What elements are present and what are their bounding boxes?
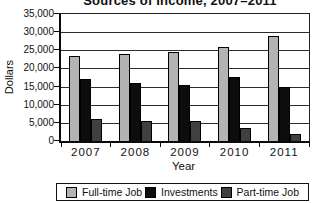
- x-axis-title: Year: [59, 160, 308, 172]
- x-axis-label-2011: 2011: [259, 146, 309, 158]
- x-axis-label-2010: 2010: [210, 146, 260, 158]
- bar-investments-2008: [130, 83, 141, 141]
- bar-part-time-job-2008: [141, 121, 152, 141]
- y-axis-tick-label: 15,000: [12, 81, 54, 93]
- legend-swatch-part-time-job: [221, 187, 232, 198]
- plot-area: [59, 13, 310, 143]
- chart-title: Sources of Income, 2007–2011: [50, 0, 310, 8]
- y-axis-tick: [54, 13, 59, 14]
- bar-full-time-job-2007: [69, 56, 80, 141]
- legend-item-full-time-job: Full-time Job: [66, 186, 142, 198]
- y-axis-tick-label: 0: [12, 135, 54, 147]
- legend-swatch-investments: [145, 187, 156, 198]
- bar-investments-2007: [80, 79, 91, 141]
- bar-investments-2009: [179, 85, 190, 141]
- y-axis-tick: [54, 49, 59, 50]
- income-bar-chart-figure: Sources of Income, 2007–2011 Dollars 35,…: [0, 0, 314, 203]
- y-axis-tick-label: 25,000: [12, 44, 54, 56]
- gridline: [61, 32, 309, 33]
- bar-part-time-job-2011: [290, 134, 301, 141]
- y-axis-tick-label: 30,000: [12, 26, 54, 38]
- x-axis-label-2007: 2007: [61, 146, 111, 158]
- bar-group-2010: [210, 47, 260, 141]
- bar-full-time-job-2010: [218, 47, 229, 141]
- bar-part-time-job-2009: [190, 121, 201, 141]
- legend-label-part-time-job: Part-time Job: [237, 186, 299, 198]
- y-axis-tick-label: 20,000: [12, 62, 54, 74]
- y-axis-tick-label: 5,000: [12, 117, 54, 129]
- legend: Full-time JobInvestmentsPart-time Job: [56, 183, 309, 201]
- bar-group-2009: [160, 52, 210, 141]
- y-axis-tick: [54, 122, 59, 123]
- bar-part-time-job-2010: [240, 128, 251, 141]
- bar-group-2008: [111, 54, 161, 141]
- legend-item-investments: Investments: [145, 186, 218, 198]
- bar-full-time-job-2009: [168, 52, 179, 141]
- bar-full-time-job-2011: [268, 36, 279, 141]
- x-axis-label-2009: 2009: [160, 146, 210, 158]
- legend-label-investments: Investments: [161, 186, 218, 198]
- y-axis-tick: [54, 104, 59, 105]
- bar-full-time-job-2008: [119, 54, 130, 141]
- y-axis-tick-label: 10,000: [12, 99, 54, 111]
- legend-item-part-time-job: Part-time Job: [221, 186, 299, 198]
- legend-swatch-full-time-job: [66, 187, 77, 198]
- y-axis-tick: [54, 86, 59, 87]
- y-axis-tick: [54, 140, 59, 141]
- bar-group-2007: [61, 56, 111, 141]
- bar-investments-2011: [279, 87, 290, 141]
- y-axis-tick: [54, 31, 59, 32]
- bar-part-time-job-2007: [91, 119, 102, 141]
- y-axis-tick: [54, 67, 59, 68]
- x-axis-label-2008: 2008: [111, 146, 161, 158]
- bar-investments-2010: [229, 77, 240, 141]
- y-axis-tick-label: 35,000: [12, 8, 54, 20]
- legend-label-full-time-job: Full-time Job: [82, 186, 142, 198]
- bar-group-2011: [259, 36, 309, 141]
